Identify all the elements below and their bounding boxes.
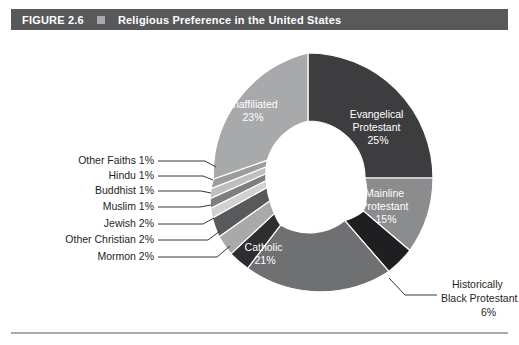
leader-line-buddhist: [158, 191, 211, 193]
callout-label-other-faiths: Other Faiths 1%: [78, 154, 154, 166]
square-bullet-icon: [97, 16, 105, 24]
callout-label-buddhist: Buddhist 1%: [95, 184, 154, 196]
leader-line-mormon: [158, 246, 230, 257]
figure-container: FIGURE 2.6 Religious Preference in the U…: [0, 0, 519, 345]
callout-label-hindu: Hindu 1%: [108, 169, 154, 181]
callout-label-mormon: Mormon 2%: [97, 250, 154, 262]
callout-label-muslim: Muslim 1%: [103, 200, 154, 212]
callout-label-jewish: Jewish 2%: [104, 217, 154, 229]
leader-line-historically-black-protestant: [389, 278, 437, 295]
callout-label-other-christian: Other Christian 2%: [65, 233, 154, 245]
donut-chart: Evangelical Protestant 25% Mainline Prot…: [0, 30, 519, 333]
chart-area: Evangelical Protestant 25% Mainline Prot…: [0, 30, 519, 333]
callout-historically-black-protestant: Historically Black Protestant 6%: [389, 278, 519, 318]
left-callouts: Other Faiths 1% Hindu 1% Buddhist 1% Mus…: [65, 154, 230, 262]
donut-slices: [210, 53, 433, 292]
leader-line-muslim: [158, 205, 211, 207]
leader-line-jewish: [158, 218, 214, 224]
figure-header-bar: FIGURE 2.6 Religious Preference in the U…: [11, 9, 508, 30]
leader-line-other-christian: [158, 231, 220, 240]
callout-label-historically-black-protestant: Historically Black Protestant 6%: [441, 278, 519, 318]
figure-bottom-rule: [11, 332, 508, 334]
leader-line-other-faiths: [158, 161, 216, 167]
figure-number: FIGURE 2.6: [22, 14, 84, 26]
leader-line-hindu: [158, 176, 213, 180]
figure-title: Religious Preference in the United State…: [118, 14, 341, 26]
